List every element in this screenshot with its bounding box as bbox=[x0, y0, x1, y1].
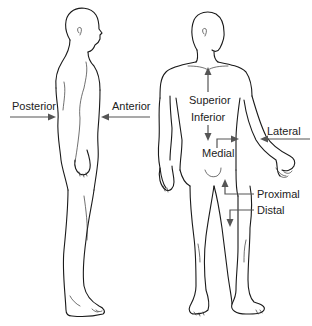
side-ear-icon bbox=[78, 27, 82, 35]
proximal-label: Proximal bbox=[257, 188, 300, 200]
anterior-indicator: Anterior bbox=[101, 100, 151, 121]
arrow-up-icon bbox=[222, 179, 229, 187]
anatomy-diagram: Posterior Anterior bbox=[0, 0, 312, 326]
superior-label: Superior bbox=[189, 94, 231, 106]
inferior-label: Inferior bbox=[191, 111, 226, 123]
distal-indicator: Distal bbox=[227, 204, 285, 227]
superior-indicator: Superior bbox=[189, 67, 231, 106]
side-hand bbox=[75, 150, 91, 175]
arrow-right-icon bbox=[48, 114, 56, 121]
posterior-indicator: Posterior bbox=[10, 100, 56, 121]
side-view-figure bbox=[56, 8, 105, 316]
distal-label: Distal bbox=[257, 204, 285, 216]
arrow-up-icon bbox=[205, 67, 212, 75]
inferior-indicator: Inferior bbox=[191, 111, 226, 141]
front-ear-icon bbox=[203, 28, 207, 36]
arrow-left-icon bbox=[260, 136, 268, 143]
anterior-label: Anterior bbox=[112, 100, 151, 112]
posterior-label: Posterior bbox=[12, 100, 56, 112]
lateral-indicator: Lateral bbox=[260, 125, 310, 143]
front-head bbox=[192, 12, 224, 51]
arrow-left-icon bbox=[101, 114, 109, 121]
medial-label: Medial bbox=[202, 147, 234, 159]
side-head bbox=[66, 8, 102, 52]
arrow-right-icon bbox=[231, 136, 239, 143]
lateral-label: Lateral bbox=[267, 125, 301, 137]
proximal-indicator: Proximal bbox=[222, 179, 300, 200]
front-view-figure bbox=[158, 12, 294, 316]
arrow-down-icon bbox=[205, 133, 212, 141]
arrow-down-icon bbox=[227, 219, 234, 227]
